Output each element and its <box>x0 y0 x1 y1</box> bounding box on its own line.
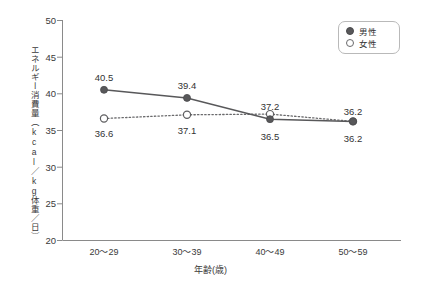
point-label-female-40-49: 37.2 <box>253 101 287 112</box>
series-markers-female <box>100 111 356 126</box>
y-tick-label-20: 20 <box>36 235 56 246</box>
y-tick-label-50: 50 <box>36 15 56 26</box>
point-label-female-50-59: 36.2 <box>336 106 370 117</box>
point-label-female-20-29: 36.6 <box>87 128 121 139</box>
y-tick-label-30: 30 <box>36 162 56 173</box>
point-label-male-40-49: 36.5 <box>253 131 287 142</box>
y-tick-label-35: 35 <box>36 125 56 136</box>
x-tick-label-40-49: 40〜49 <box>235 245 305 258</box>
energy-expenditure-line-chart: エネルギー消費量（kcal／kg体重／日） 50 45 40 35 30 25 … <box>0 0 421 290</box>
x-tick-label-50-59: 50〜59 <box>318 245 388 258</box>
legend-label-male: 男性 <box>359 25 377 37</box>
filled-circle-icon <box>346 27 354 35</box>
x-tick-label-30-39: 30〜39 <box>152 245 222 258</box>
y-axis-ticks <box>57 21 63 241</box>
y-tick-label-40: 40 <box>36 88 56 99</box>
open-circle-icon <box>346 39 354 47</box>
x-tick-label-20-29: 20〜29 <box>69 245 139 258</box>
legend-item-male: 男性 <box>346 25 394 37</box>
y-tick-label-45: 45 <box>36 52 56 63</box>
point-label-male-30-39: 39.4 <box>170 80 204 91</box>
y-axis-title: エネルギー消費量（kcal／kg体重／日） <box>22 46 38 198</box>
legend-item-female: 女性 <box>346 37 394 49</box>
legend-label-female: 女性 <box>359 37 377 49</box>
series-markers-male <box>101 86 357 125</box>
point-label-male-20-29: 40.5 <box>87 72 121 83</box>
point-label-male-50-59: 36.2 <box>336 133 370 144</box>
y-tick-label-25: 25 <box>36 198 56 209</box>
x-axis-title: 年齢(歳) <box>0 263 421 276</box>
point-label-female-30-39: 37.1 <box>170 125 204 136</box>
legend: 男性 女性 <box>338 21 400 54</box>
